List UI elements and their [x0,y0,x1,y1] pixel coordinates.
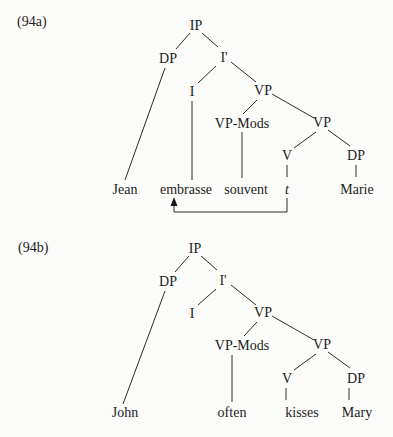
example-label: (94b) [18,240,48,256]
leaf-subject: Jean [113,182,138,198]
leaf-adverb: souvent [224,182,268,198]
node-ip: IP [189,241,201,257]
arrowhead-icon [171,197,178,206]
leaf-verb-raised: embrasse [160,182,212,198]
node-i: I [190,84,195,100]
node-ibar: I' [219,273,226,289]
node-vp-lower: VP [313,115,331,131]
leaf-verb: kisses [285,405,318,421]
node-vp-upper: VP [254,83,272,99]
example-label: (94a) [17,14,47,30]
node-dp-object: DP [347,371,365,387]
leaf-object: Mary [342,405,372,421]
leaf-adverb: often [218,405,247,421]
node-vp-mods: VP-Mods [215,116,269,132]
node-v: V [282,371,292,387]
tree-94b-edges [123,256,350,404]
node-ibar: I' [220,50,227,66]
leaf-trace: t [285,182,289,198]
movement-arrow [174,198,287,212]
leaf-object: Marie [340,182,373,198]
node-vp-upper: VP [254,305,272,321]
node-dp-subject: DP [159,51,177,67]
node-dp-subject: DP [159,274,177,290]
node-i: I [190,306,195,322]
node-vp-lower: VP [313,337,331,353]
tree-edges [0,0,393,437]
node-v: V [282,148,292,164]
node-vp-mods: VP-Mods [215,338,269,354]
node-ip: IP [190,18,202,34]
node-dp-object: DP [347,148,365,164]
leaf-subject: John [112,405,138,421]
